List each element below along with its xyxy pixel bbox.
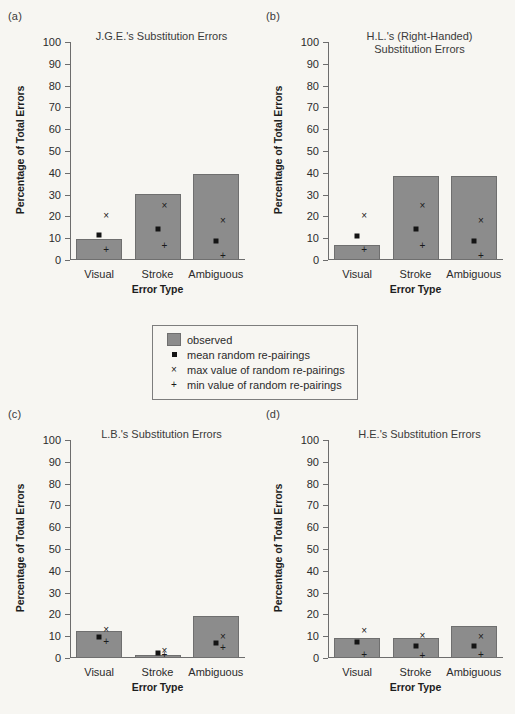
- panel-a-min-marker-visual: +: [99, 245, 113, 255]
- max-cross-icon: ×: [161, 364, 187, 375]
- panel-d-y-axis-label: Percentage of Total Errors: [272, 458, 284, 638]
- tick-mark: [323, 636, 328, 637]
- panel-b-y-tick-label: 70: [307, 101, 319, 113]
- panel-a-category-label: Visual: [84, 268, 114, 280]
- panel-d-category-label: Ambiguous: [446, 666, 501, 678]
- panel-c-min-marker-stroke: +: [158, 650, 172, 660]
- panel-b-label: (b): [266, 10, 280, 22]
- panel-a-category-label: Ambiguous: [188, 268, 243, 280]
- panel-d-y-tick-label: 100: [301, 434, 319, 446]
- tick-mark: [323, 129, 328, 130]
- tick-mark: [323, 462, 328, 463]
- tick-mark: [323, 64, 328, 65]
- panel-a-max-marker-ambiguous: ×: [216, 216, 230, 226]
- panel-c-y-axis-label: Percentage of Total Errors: [14, 458, 26, 638]
- tick-mark: [65, 593, 70, 594]
- panel-d-max-marker-ambiguous: ×: [474, 632, 488, 642]
- panel-a-min-marker-ambiguous: +: [216, 251, 230, 261]
- legend-label-max: max value of random re-pairings: [187, 364, 345, 376]
- panel-c-category-label: Stroke: [142, 666, 174, 678]
- panel-c-y-axis: [70, 440, 71, 658]
- panel-d-y-tick-label: 10: [307, 630, 319, 642]
- tick-mark: [323, 440, 328, 441]
- panel-d-plot-area: 1009080706050403020100×+Visual×+Stroke×+…: [328, 440, 503, 658]
- panel-b-y-tick-label: 10: [307, 232, 319, 244]
- panel-d-y-tick-label: 0: [313, 652, 319, 664]
- panel-d-category-label: Stroke: [400, 666, 432, 678]
- panel-b-y-axis: [328, 42, 329, 260]
- panel-c-y-tick-label: 0: [55, 652, 61, 664]
- panel-a-category-label: Stroke: [142, 268, 174, 280]
- tick-mark: [65, 658, 70, 659]
- tick-mark: [323, 614, 328, 615]
- panel-a-y-tick-label: 30: [49, 189, 61, 201]
- panel-d-min-marker-ambiguous: +: [474, 650, 488, 660]
- panel-d-label: (d): [266, 408, 280, 420]
- tick-mark: [65, 151, 70, 152]
- tick-mark: [323, 238, 328, 239]
- panel-b-max-marker-ambiguous: ×: [474, 216, 488, 226]
- tick-mark: [65, 484, 70, 485]
- panel-d-y-tick-label: 70: [307, 499, 319, 511]
- legend-item-min: + min value of random re-pairings: [161, 377, 349, 392]
- tick-mark: [65, 549, 70, 550]
- panel-d-max-marker-visual: ×: [357, 626, 371, 636]
- tick-mark: [65, 107, 70, 108]
- tick-mark: [65, 216, 70, 217]
- panel-a-label: (a): [8, 10, 22, 22]
- panel-c-y-tick-label: 60: [49, 521, 61, 533]
- panel-b-min-marker-stroke: +: [416, 241, 430, 251]
- panel-b-y-tick-label: 20: [307, 210, 319, 222]
- panel-b-y-tick-label: 30: [307, 189, 319, 201]
- panel-d: (d) H.E.'s Substitution Errors Percentag…: [258, 398, 513, 698]
- panel-b-category-label: Stroke: [400, 268, 432, 280]
- panel-b-y-tick-label: 100: [301, 36, 319, 48]
- tick-mark: [65, 238, 70, 239]
- min-plus-icon: +: [161, 379, 187, 390]
- panel-d-y-tick-label: 50: [307, 543, 319, 555]
- tick-mark: [323, 173, 328, 174]
- panel-a-x-axis-label: Error Type: [70, 283, 245, 295]
- panel-c-y-tick-label: 10: [49, 630, 61, 642]
- panel-b-y-tick-label: 90: [307, 58, 319, 70]
- panel-c-y-tick-label: 20: [49, 608, 61, 620]
- tick-mark: [65, 260, 70, 261]
- tick-mark: [65, 195, 70, 196]
- panel-d-y-tick-label: 80: [307, 478, 319, 490]
- panel-d-max-marker-stroke: ×: [416, 631, 430, 641]
- panel-c-y-tick-label: 80: [49, 478, 61, 490]
- panel-b-plot-area: 1009080706050403020100×+Visual×+Stroke×+…: [328, 42, 503, 260]
- tick-mark: [65, 173, 70, 174]
- panel-b-y-tick-label: 40: [307, 167, 319, 179]
- panel-b-max-marker-stroke: ×: [416, 201, 430, 211]
- mean-square-icon: [161, 352, 187, 357]
- tick-mark: [323, 658, 328, 659]
- panel-c: (c) L.B.'s Substitution Errors Percentag…: [0, 398, 255, 698]
- tick-mark: [323, 216, 328, 217]
- tick-mark: [65, 440, 70, 441]
- tick-mark: [323, 260, 328, 261]
- panel-c-label: (c): [8, 408, 21, 420]
- tick-mark: [323, 107, 328, 108]
- panel-d-y-tick-label: 60: [307, 521, 319, 533]
- tick-mark: [65, 64, 70, 65]
- panel-b-min-marker-ambiguous: +: [474, 251, 488, 261]
- legend-label-min: min value of random re-pairings: [187, 379, 342, 391]
- tick-mark: [323, 505, 328, 506]
- panel-b-x-axis-label: Error Type: [328, 283, 503, 295]
- panel-a-y-tick-label: 10: [49, 232, 61, 244]
- panel-a-max-marker-visual: ×: [99, 211, 113, 221]
- panel-c-y-tick-label: 70: [49, 499, 61, 511]
- tick-mark: [323, 549, 328, 550]
- panel-b-y-axis-label: Percentage of Total Errors: [272, 60, 284, 240]
- tick-mark: [323, 571, 328, 572]
- panel-c-y-tick-label: 30: [49, 587, 61, 599]
- panel-d-category-label: Visual: [342, 666, 372, 678]
- panel-a: (a) J.G.E.'s Substitution Errors Percent…: [0, 0, 255, 300]
- panel-d-y-tick-label: 40: [307, 565, 319, 577]
- panel-a-y-tick-label: 20: [49, 210, 61, 222]
- observed-swatch-icon: [161, 333, 187, 346]
- panel-a-y-tick-label: 50: [49, 145, 61, 157]
- legend: observed mean random re-pairings × max v…: [152, 325, 358, 400]
- tick-mark: [65, 42, 70, 43]
